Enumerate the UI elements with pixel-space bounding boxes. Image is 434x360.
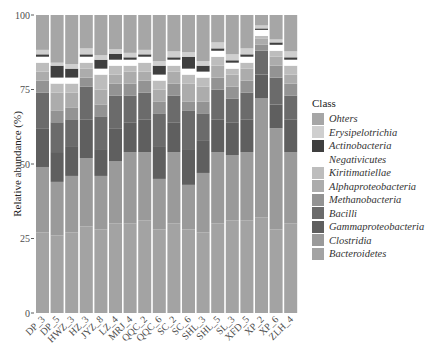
segment-bacteroidetes [51, 236, 64, 313]
segment-actinobacteria [255, 28, 268, 29]
bar-JYZ_8 [94, 15, 107, 313]
legend-label: Gammaproteobacteria [329, 221, 424, 232]
segment-methanobacteria [36, 81, 49, 93]
bar-DP_5 [51, 15, 64, 313]
segment-actinobacteria [211, 48, 224, 50]
segment-gammaproteobacteria [240, 119, 253, 152]
legend-swatch [312, 113, 324, 125]
segment-erysipelotrichia [284, 51, 297, 57]
legend-title: Class [312, 97, 424, 109]
segment-ohters [211, 15, 224, 42]
segment-ohters [124, 15, 137, 53]
segment-actinobacteria [153, 66, 166, 75]
segment-clostridia [167, 152, 180, 224]
segment-kiritimatiellae [270, 51, 283, 57]
segment-bacteroidetes [138, 221, 151, 313]
legend-label: Clostridia [329, 235, 372, 246]
segment-actinobacteria [124, 57, 137, 59]
segment-gammaproteobacteria [138, 119, 151, 152]
segment-bacilli [270, 78, 283, 105]
segment-gammaproteobacteria [51, 152, 64, 182]
segment-kiritimatiellae [240, 63, 253, 69]
segment-negativicutes [270, 45, 283, 51]
legend-item: Methanobacteria [312, 193, 424, 207]
segment-alphaproteobacteria [153, 90, 166, 102]
segment-methanobacteria [94, 104, 107, 116]
segment-clostridia [240, 152, 253, 221]
legend-swatch [312, 180, 324, 192]
segment-ohters [167, 15, 180, 51]
segment-actinobacteria [94, 60, 107, 69]
legend-label: Bacteroidetes [329, 248, 386, 259]
segment-methanobacteria [182, 101, 195, 110]
segment-ohters [94, 15, 107, 55]
bar-ZLH_4 [284, 15, 297, 313]
legend-item: Kiritimatiellae [312, 166, 424, 180]
segment-erysipelotrichia [51, 63, 64, 66]
segment-actinobacteria [197, 66, 210, 72]
segment-negativicutes [138, 57, 151, 63]
segment-bacteroidetes [167, 224, 180, 313]
segment-erysipelotrichia [226, 54, 239, 60]
segment-erysipelotrichia [167, 51, 180, 57]
segment-alphaproteobacteria [36, 72, 49, 81]
segment-negativicutes [182, 69, 195, 75]
segment-bacteroidetes [226, 221, 239, 313]
legend-item: Erysipelotrichia [312, 126, 424, 140]
segment-methanobacteria [138, 81, 151, 93]
bar-DP_3 [36, 15, 49, 313]
segment-bacteroidetes [80, 227, 93, 313]
segment-bacteroidetes [153, 230, 166, 313]
segment-bacilli [197, 113, 210, 140]
legend-item: Bacteroidetes [312, 247, 424, 261]
segment-methanobacteria [124, 84, 137, 96]
segment-bacteroidetes [197, 233, 210, 313]
segment-bacilli [138, 92, 151, 119]
segment-alphaproteobacteria [138, 72, 151, 81]
bar-HZ_3 [80, 15, 93, 313]
segment-erysipelotrichia [94, 55, 107, 59]
segment-bacilli [284, 95, 297, 119]
segment-actinobacteria [270, 42, 283, 44]
segment-gammaproteobacteria [284, 119, 297, 152]
legend-swatch [312, 194, 324, 206]
segment-erysipelotrichia [36, 50, 49, 54]
segment-methanobacteria [240, 81, 253, 93]
bar-MRJ_4 [124, 15, 137, 313]
segment-ohters [270, 15, 283, 39]
legend-swatch [312, 234, 324, 246]
bar-SC_2 [167, 15, 180, 313]
segment-kiritimatiellae [167, 66, 180, 72]
segment-negativicutes [36, 57, 49, 63]
legend-swatch [312, 248, 324, 260]
segment-negativicutes [124, 60, 137, 66]
bar-QQC_6 [153, 15, 166, 313]
segment-actinobacteria [80, 54, 93, 56]
legend-swatch [312, 221, 324, 233]
segment-clostridia [94, 176, 107, 230]
segment-ohters [51, 15, 64, 63]
legend-label: Erysipelotrichia [329, 127, 397, 138]
x-axis: DP_3DP_5HWZ_3HZ_3JYZ_8LZ_4MRJ_4QQC_2QQC_… [23, 314, 295, 345]
segment-bacteroidetes [65, 233, 78, 313]
segment-gammaproteobacteria [167, 122, 180, 152]
y-tick-label: 25 [20, 233, 30, 244]
segment-methanobacteria [167, 84, 180, 96]
segment-actinobacteria [109, 54, 122, 60]
bar-SHL_5 [211, 15, 224, 313]
segment-methanobacteria [226, 87, 239, 99]
segment-gammaproteobacteria [94, 149, 107, 176]
y-tick-label: 100 [15, 10, 30, 21]
segment-clostridia [138, 152, 151, 221]
legend-items: OhtersErysipelotrichiaActinobacteriaNega… [312, 112, 424, 261]
segment-kiritimatiellae [36, 63, 49, 72]
segment-negativicutes [197, 72, 210, 78]
segment-bacteroidetes [211, 224, 224, 313]
segment-kiritimatiellae [124, 66, 137, 72]
segment-clostridia [109, 161, 122, 224]
segment-kiritimatiellae [80, 63, 93, 69]
segment-negativicutes [94, 69, 107, 75]
segment-alphaproteobacteria [284, 75, 297, 84]
segment-clostridia [51, 182, 64, 236]
segment-clostridia [80, 158, 93, 227]
